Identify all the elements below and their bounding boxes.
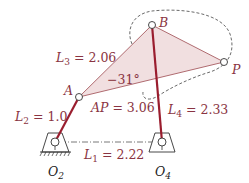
label-L3: L3 = 2.06 [55,50,116,67]
label-L1: L1 = 2.22 [83,147,144,164]
label-L4: L4 = 2.33 [167,102,228,119]
joint-O2 [51,138,59,146]
label-O2: O2 [48,164,64,181]
joint-P [221,59,228,66]
joint-O4 [158,138,166,146]
joint-B [149,22,156,29]
label-AP: AP = 3.06 [90,100,155,115]
joint-A [76,94,83,101]
label-B: B [158,15,168,30]
label-P: P [231,62,241,77]
four-bar-linkage-diagram: B P A O2 O4 L3 = 2.06 −31° AP = 3.06 L2 … [0,0,249,183]
label-A: A [63,83,73,98]
label-L2: L2 = 1.0 [14,109,67,126]
label-O4: O4 [155,164,171,181]
label-angle: −31° [107,72,140,87]
